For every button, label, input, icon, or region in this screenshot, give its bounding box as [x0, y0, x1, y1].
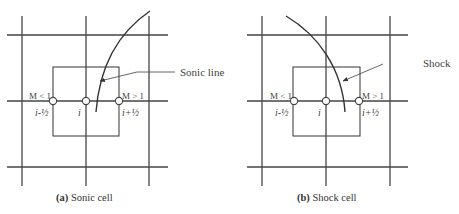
- sonic-line-label: Sonic line: [180, 66, 224, 78]
- center-index: i: [78, 107, 81, 118]
- mach-subsonic-label: M < 1: [29, 91, 51, 101]
- caption-sonic-cell: (a) Sonic cell: [56, 192, 113, 204]
- panel-shock-cell: Shock M < 1 M > 1 i-½ i i+½ (b) Shock ce…: [247, 16, 451, 204]
- shock-label: Shock: [423, 57, 451, 69]
- figure: Sonic line M < 1 M > 1 i-½ i i+½ (a) Son…: [0, 0, 459, 214]
- mach-subsonic-label: M < 1: [270, 91, 292, 101]
- right-face-index: i+½: [122, 107, 140, 118]
- sonic-line-leader: [100, 72, 175, 81]
- cell-center-node: [82, 97, 89, 104]
- cell-center-node: [322, 97, 329, 104]
- panel-sonic-cell: Sonic line M < 1 M > 1 i-½ i i+½ (a) Son…: [7, 11, 224, 204]
- left-face-index: i-½: [35, 107, 49, 118]
- center-index: i: [318, 107, 321, 118]
- right-face-index: i+½: [362, 107, 380, 118]
- mach-supersonic-label: M > 1: [122, 91, 144, 101]
- caption-shock-cell: (b) Shock cell: [297, 192, 357, 204]
- mach-supersonic-label: M > 1: [362, 91, 384, 101]
- left-face-index: i-½: [275, 107, 289, 118]
